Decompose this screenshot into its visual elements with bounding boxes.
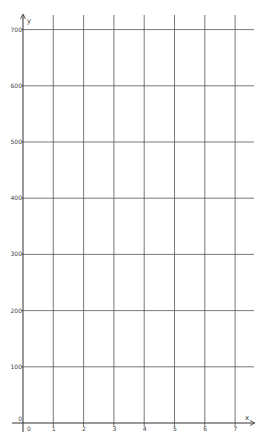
x-tick-label: 3 <box>112 425 116 432</box>
x-tick-label: 6 <box>203 425 207 432</box>
x-tick-label: 4 <box>143 425 147 432</box>
x-axis-label: x <box>245 414 249 422</box>
x-tick-label: 7 <box>234 425 238 432</box>
y-tick-label: 300 <box>11 250 23 257</box>
y-tick-label: 100 <box>11 363 23 370</box>
x-tick-label: 5 <box>173 425 177 432</box>
y-tick-label: 500 <box>11 138 23 145</box>
y-tick-labels: 0100200300400500600700 <box>11 26 23 422</box>
vertical-gridlines <box>53 15 235 427</box>
x-tick-label: 2 <box>82 425 86 432</box>
y-tick-label: 400 <box>11 194 23 201</box>
y-axis-label: y <box>27 17 31 25</box>
x-tick-label: 0 <box>27 425 31 432</box>
y-tick-label: 0 <box>18 415 22 422</box>
y-tick-label: 600 <box>11 82 23 89</box>
y-tick-label: 200 <box>11 307 23 314</box>
x-tick-label: 1 <box>52 425 56 432</box>
coordinate-grid: y x 01234567 0100200300400500600700 <box>0 0 267 444</box>
y-tick-label: 700 <box>11 26 23 33</box>
axes: y x <box>12 14 255 432</box>
x-tick-labels: 01234567 <box>27 425 238 432</box>
horizontal-gridlines <box>21 30 254 367</box>
